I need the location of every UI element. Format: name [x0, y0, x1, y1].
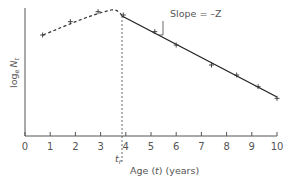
slope-annotation: Slope = –Z [170, 8, 222, 19]
x-tick-label: 8 [223, 141, 229, 152]
data-point-marker [121, 13, 126, 18]
x-tick-label: 9 [249, 141, 255, 152]
data-point-marker [40, 33, 45, 38]
x-axis-title: Age (t) (years) [130, 165, 199, 176]
data-markers [40, 9, 279, 101]
slope-leader-line [158, 21, 163, 35]
recruitment-age-label: tr [115, 153, 123, 166]
x-tick-label: 5 [148, 141, 154, 152]
catch-curve-chart: 012345678910 tr Slope = –Z logeNt Age (t… [0, 0, 294, 185]
x-tick-label: 3 [97, 141, 103, 152]
ascending-limb-curve [43, 10, 122, 35]
x-tick-label: 6 [173, 141, 179, 152]
x-ticks [25, 132, 277, 136]
x-tick-label: 1 [47, 141, 53, 152]
data-point-marker [68, 19, 73, 24]
x-tick-labels: 012345678910 [22, 141, 284, 152]
x-tick-label: 2 [72, 141, 78, 152]
x-tick-label: 0 [22, 141, 28, 152]
x-tick-label: 10 [271, 141, 284, 152]
y-axis-title: logeNt [8, 57, 21, 88]
x-tick-label: 4 [123, 141, 129, 152]
x-tick-label: 7 [198, 141, 204, 152]
descending-limb-line [122, 16, 277, 97]
